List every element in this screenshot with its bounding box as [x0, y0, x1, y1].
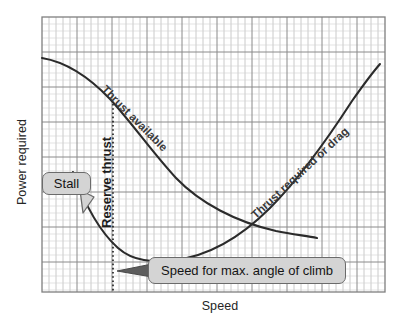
y-axis-label: Power required — [15, 97, 29, 227]
plot-background — [42, 17, 385, 292]
callout-stall: Stall — [42, 172, 91, 195]
callout-speed-for-max-angle-of-climb: Speed for max. angle of climb — [148, 257, 346, 284]
annotation-label-reserve-thrust: Reserve thrust — [99, 137, 114, 228]
x-axis-label: Speed — [175, 299, 265, 313]
power-required-vs-speed-chart: Power required Speed Thrust available Th… — [0, 0, 402, 321]
